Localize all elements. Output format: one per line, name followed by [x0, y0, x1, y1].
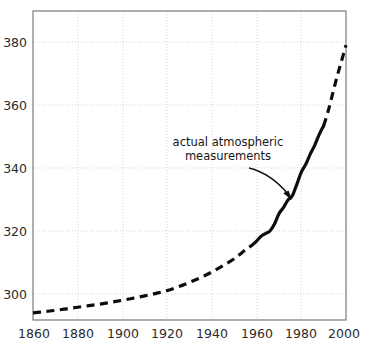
x-tick-1900: 1900: [107, 326, 139, 341]
x-tick-1980: 1980: [285, 326, 317, 341]
y-tick-300: 300: [3, 287, 27, 302]
x-tick-1880: 1880: [62, 326, 94, 341]
x-tick-1960: 1960: [241, 326, 273, 341]
chart-background: [0, 0, 366, 356]
annotation-line-2: measurements: [185, 149, 271, 163]
y-tick-320: 320: [3, 224, 27, 239]
x-tick-1940: 1940: [196, 326, 228, 341]
x-tick-1860: 1860: [18, 326, 50, 341]
x-tick-1920: 1920: [151, 326, 183, 341]
chart-canvas: 380 360 340 320 300 1860 1880 1900 1920 …: [0, 0, 366, 356]
co2-concentration-chart: 380 360 340 320 300 1860 1880 1900 1920 …: [0, 0, 366, 356]
annotation-line-1: actual atmospheric: [173, 135, 284, 149]
x-tick-2000: 2000: [328, 326, 360, 341]
y-tick-360: 360: [3, 98, 27, 113]
y-tick-380: 380: [3, 35, 27, 50]
y-tick-340: 340: [3, 161, 27, 176]
